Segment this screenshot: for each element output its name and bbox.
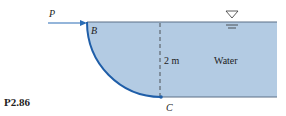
point-c-marker <box>159 95 163 99</box>
force-label: P <box>49 9 55 19</box>
depth-label: 2 m <box>164 56 179 66</box>
fluid-label: Water <box>214 56 238 66</box>
free-surface-triangle-icon <box>226 11 238 18</box>
diagram-canvas <box>0 0 286 116</box>
problem-label: P2.86 <box>4 97 30 108</box>
water-region <box>87 22 277 97</box>
point-c-label: C <box>166 103 173 113</box>
point-b-label: B <box>91 26 97 36</box>
force-arrowhead-icon <box>80 20 87 26</box>
